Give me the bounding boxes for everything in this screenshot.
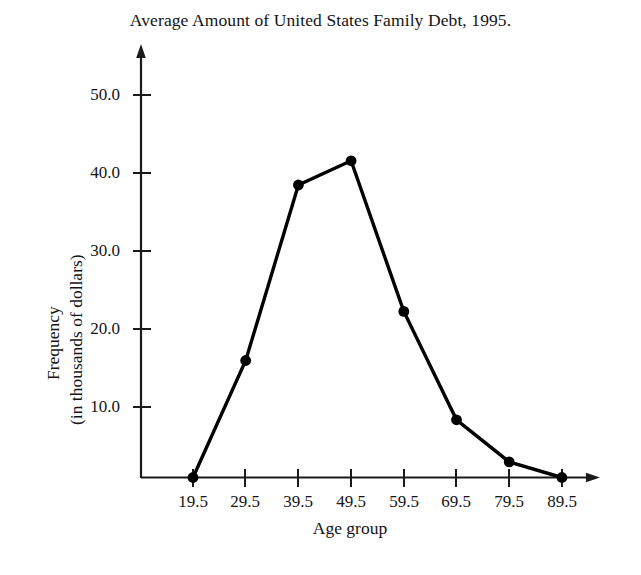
data-point xyxy=(346,155,357,166)
data-series-markers xyxy=(188,155,568,483)
x-axis xyxy=(141,473,600,483)
data-point xyxy=(504,457,515,468)
data-point xyxy=(240,355,251,366)
data-point xyxy=(557,472,568,483)
y-axis-title-line-2: (in thousands of dollars) xyxy=(66,254,87,425)
data-point xyxy=(398,306,409,317)
x-tick-label-39-5: 39.5 xyxy=(268,492,328,512)
x-tick-label-79-5: 79.5 xyxy=(479,492,539,512)
x-axis-title: Age group xyxy=(190,518,510,539)
data-point xyxy=(451,414,462,425)
x-tick-label-89-5: 89.5 xyxy=(532,492,592,512)
y-tick-label-40: 40.0 xyxy=(56,163,120,183)
x-tick-label-49-5: 49.5 xyxy=(321,492,381,512)
y-tick-label-50: 50.0 xyxy=(56,85,120,105)
y-axis-title-line-1: Frequency xyxy=(43,306,64,380)
chart-page: Average Amount of United States Family D… xyxy=(0,0,641,575)
x-tick-label-19-5: 19.5 xyxy=(163,492,223,512)
data-point xyxy=(293,180,304,191)
data-series-line xyxy=(193,161,562,478)
data-point xyxy=(188,472,199,483)
x-tick-label-69-5: 69.5 xyxy=(426,492,486,512)
x-tick-label-29-5: 29.5 xyxy=(215,492,275,512)
x-tick-label-59-5: 59.5 xyxy=(374,492,434,512)
y-axis xyxy=(136,44,146,478)
